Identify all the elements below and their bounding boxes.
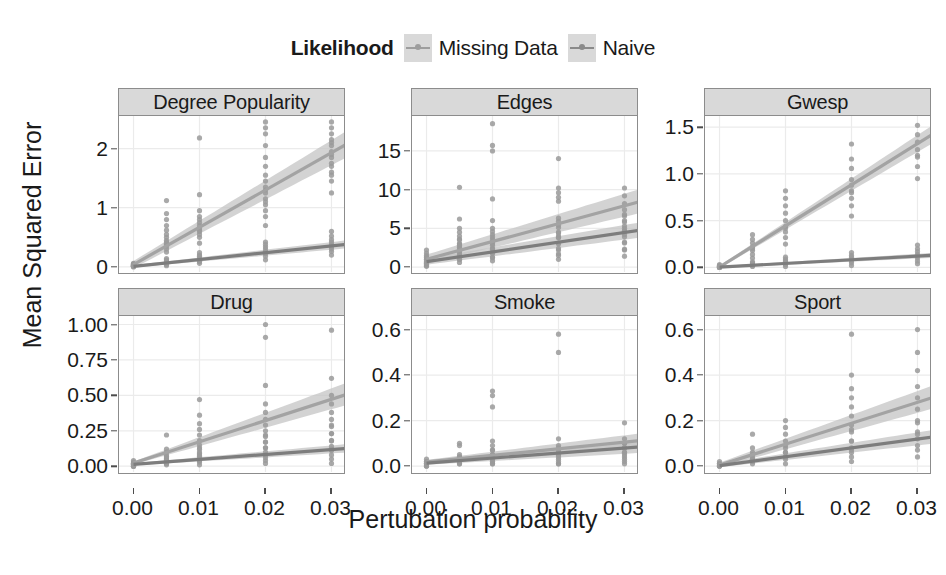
y-axis-tick-mark	[111, 266, 117, 267]
plot-area	[411, 116, 638, 274]
y-axis: 0.00.20.40.6	[353, 316, 411, 474]
x-axis-tick-mark	[719, 488, 720, 494]
facet-strip: Drug	[118, 288, 345, 316]
y-axis-tick-mark	[697, 173, 703, 174]
facet-panel-smoke: 0.00.20.40.6Smoke	[353, 288, 646, 476]
facet-strip: Gwesp	[704, 88, 931, 116]
y-axis-tick-mark	[697, 374, 703, 375]
x-axis-tick-mark	[492, 488, 493, 494]
x-axis-tick-mark	[199, 488, 200, 494]
y-axis: 0.00.51.01.5	[646, 116, 704, 274]
plot-area	[118, 116, 345, 274]
y-axis-tick-mark	[404, 374, 410, 375]
plot-area	[118, 316, 345, 474]
y-axis-tick-label: 0.6	[665, 318, 694, 342]
y-axis-tick-label: 0.2	[665, 409, 694, 433]
x-axis-tick-mark	[133, 488, 134, 494]
y-axis-tick-mark	[404, 150, 410, 151]
legend-label-naive: Naive	[603, 36, 656, 60]
y-axis-tick-label: 1	[96, 196, 108, 220]
facet-strip-label: Edges	[497, 92, 553, 112]
plot-area	[704, 116, 931, 274]
facet-strip: Edges	[411, 88, 638, 116]
y-axis-tick-label: 1.5	[665, 115, 694, 139]
facet-strip: Degree Popularity	[118, 88, 345, 116]
y-axis-tick-mark	[404, 465, 410, 466]
y-axis-tick-label: 0.4	[372, 363, 401, 387]
x-axis-tick-mark	[330, 488, 331, 494]
y-axis-tick-label: 5	[389, 216, 401, 240]
legend-key-icon	[404, 34, 432, 62]
x-axis-tick-mark	[916, 488, 917, 494]
legend: Likelihood Missing Data Naive	[0, 28, 946, 68]
facet-grid: 012Degree Popularity051015Edges0.00.51.0…	[60, 88, 940, 488]
plot-area	[411, 316, 638, 474]
y-axis-tick-mark	[111, 207, 117, 208]
legend-entry-missing-data[interactable]: Missing Data	[404, 34, 558, 62]
y-axis-tick-label: 0.0	[665, 255, 694, 279]
y-axis-tick-mark	[697, 420, 703, 421]
facet-strip-label: Drug	[210, 292, 253, 312]
facet-strip: Smoke	[411, 288, 638, 316]
y-axis-tick-label: 0.5	[665, 209, 694, 233]
legend-key-point	[415, 44, 421, 50]
y-axis-tick-mark	[111, 324, 117, 325]
facet-strip-label: Smoke	[494, 292, 555, 312]
y-axis-tick-label: 1.0	[665, 162, 694, 186]
facet-panel-sport: 0.00.20.40.6Sport	[646, 288, 939, 476]
y-axis-tick-label: 0	[96, 255, 108, 279]
y-axis-tick-mark	[697, 465, 703, 466]
y-axis-tick-mark	[697, 329, 703, 330]
facet-strip-label: Sport	[794, 292, 841, 312]
plot-area	[704, 316, 931, 474]
y-axis: 0.00.20.40.6	[646, 316, 704, 474]
x-axis-tick-mark	[785, 488, 786, 494]
y-axis-tick-mark	[697, 220, 703, 221]
y-axis-tick-mark	[111, 359, 117, 360]
facet-panel-degree-popularity: 012Degree Popularity	[60, 88, 353, 276]
x-axis-tick-mark	[850, 488, 851, 494]
y-axis-tick-label: 15	[378, 139, 401, 163]
legend-key-point	[579, 44, 585, 50]
x-axis-title: Pertubation probability	[0, 505, 946, 534]
facet-row: 0.000.250.500.751.00Drug0.00.20.40.6Smok…	[60, 288, 940, 476]
facet-panel-drug: 0.000.250.500.751.00Drug	[60, 288, 353, 476]
legend-title: Likelihood	[291, 36, 394, 60]
y-axis-tick-mark	[697, 267, 703, 268]
facet-row: 012Degree Popularity051015Edges0.00.51.0…	[60, 88, 940, 276]
y-axis-tick-label: 0.50	[67, 383, 108, 407]
legend-entry-naive[interactable]: Naive	[568, 34, 656, 62]
y-axis-tick-mark	[404, 189, 410, 190]
y-axis-tick-label: 0	[389, 255, 401, 279]
y-axis-title: Mean Squared Error	[15, 65, 49, 405]
x-axis-tick-mark	[426, 488, 427, 494]
y-axis: 012	[60, 116, 118, 274]
y-axis: 051015	[353, 116, 411, 274]
facet-strip-label: Gwesp	[787, 92, 848, 112]
y-axis-tick-label: 10	[378, 178, 401, 202]
y-axis-tick-mark	[697, 127, 703, 128]
y-axis-tick-label: 0.6	[372, 318, 401, 342]
y-axis-tick-mark	[111, 395, 117, 396]
y-axis: 0.000.250.500.751.00	[60, 316, 118, 474]
y-axis-tick-mark	[404, 266, 410, 267]
y-axis-tick-label: 0.0	[372, 454, 401, 478]
legend-label-missing-data: Missing Data	[439, 36, 558, 60]
y-axis-tick-mark	[404, 329, 410, 330]
y-axis-tick-label: 0.4	[665, 363, 694, 387]
y-axis-tick-label: 0.0	[665, 454, 694, 478]
x-axis-tick-mark	[557, 488, 558, 494]
facet-panel-edges: 051015Edges	[353, 88, 646, 276]
y-axis-tick-label: 0.2	[372, 409, 401, 433]
y-axis-tick-label: 0.00	[67, 454, 108, 478]
y-axis-tick-label: 1.00	[67, 313, 108, 337]
facet-strip-label: Degree Popularity	[153, 92, 310, 112]
x-axis-tick-mark	[623, 488, 624, 494]
x-axis-tick-mark	[264, 488, 265, 494]
y-axis-tick-mark	[111, 430, 117, 431]
y-axis-tick-mark	[404, 228, 410, 229]
facet-panel-gwesp: 0.00.51.01.5Gwesp	[646, 88, 939, 276]
y-axis-tick-label: 0.75	[67, 348, 108, 372]
y-axis-tick-label: 0.25	[67, 419, 108, 443]
facet-strip: Sport	[704, 288, 931, 316]
